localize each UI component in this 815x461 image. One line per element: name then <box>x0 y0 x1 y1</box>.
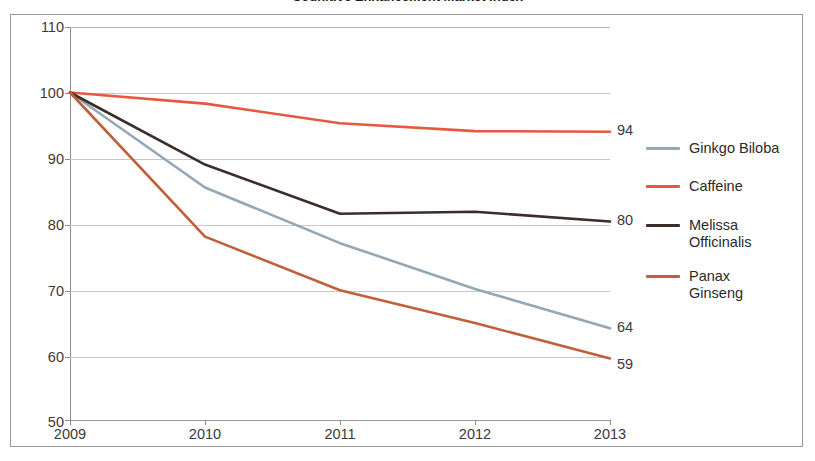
legend-swatch-icon <box>646 147 680 150</box>
end-label-caffeine: 94 <box>617 123 633 137</box>
legend-swatch-icon <box>646 275 680 278</box>
end-label-panax-ginseng: 59 <box>617 357 633 371</box>
legend-item-panax-ginseng[interactable]: Panax Ginseng <box>646 268 796 302</box>
series-line-caffeine <box>70 93 610 132</box>
legend-swatch-icon <box>646 224 680 227</box>
legend-item-melissa-officinalis[interactable]: Melissa Officinalis <box>646 217 796 251</box>
legend-swatch-icon <box>646 185 680 188</box>
legend-label: Panax Ginseng <box>689 268 796 302</box>
chart-legend: Ginkgo Biloba Caffeine Melissa Officinal… <box>646 140 796 319</box>
end-label-melissa-officinalis: 80 <box>617 213 633 227</box>
legend-item-caffeine[interactable]: Caffeine <box>646 178 796 196</box>
end-label-ginkgo-biloba: 64 <box>617 320 633 334</box>
legend-item-ginkgo-biloba[interactable]: Ginkgo Biloba <box>646 140 796 158</box>
series-line-melissa-officinalis <box>70 93 610 222</box>
chart-container: Cognitive Enhancement Market Index 110 1… <box>0 0 815 461</box>
legend-label: Caffeine <box>689 178 796 195</box>
series-line-ginkgo-biloba <box>70 93 610 329</box>
legend-label: Ginkgo Biloba <box>689 140 796 157</box>
legend-label: Melissa Officinalis <box>689 217 796 251</box>
